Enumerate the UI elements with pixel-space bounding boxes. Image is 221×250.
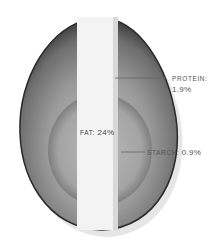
- protein-value: 1.9%: [172, 84, 208, 95]
- starch-name: Starch:: [147, 149, 179, 156]
- fat-strip: [77, 17, 113, 230]
- fat-label: Fat: 24%: [80, 128, 114, 137]
- chart-canvas: Protein: 1.9% Fat: 24% Starch: 0.9%: [0, 0, 221, 250]
- protein-label: Protein: 1.9%: [172, 73, 208, 95]
- fat-value: 24%: [97, 128, 114, 137]
- protein-strip: [113, 17, 118, 230]
- fat-name: Fat:: [80, 129, 95, 136]
- starch-label: Starch: 0.9%: [147, 148, 201, 157]
- protein-name: Protein:: [172, 73, 208, 84]
- avocado-illustration: [0, 0, 221, 250]
- starch-value: 0.9%: [182, 148, 201, 157]
